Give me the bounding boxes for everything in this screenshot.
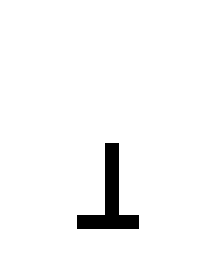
presentation-board-icon [0, 0, 224, 263]
stand-base [77, 215, 139, 229]
board-screen [26, 24, 194, 133]
stand-post [105, 143, 119, 217]
icon-canvas: Presentation Board Outline pictogram of … [0, 0, 224, 263]
